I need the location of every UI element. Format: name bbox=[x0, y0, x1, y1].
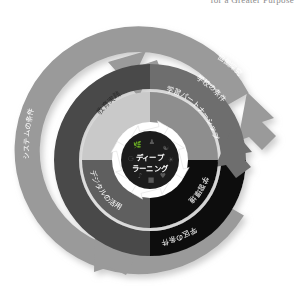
deep-learning-diagram: 🌿 ♟ ☯ ☀ ⚆ ♪ ♥ ■ ディープ ラーニング 協働探究 システムの条件 … bbox=[0, 10, 300, 286]
book-icon: ■ bbox=[148, 176, 155, 184]
diagram-canvas: 🌿 ♟ ☯ ☀ ⚆ ♪ ♥ ■ ディープ ラーニング 協働探究 システムの条件 … bbox=[0, 10, 300, 286]
core-label-line2: ラーニング bbox=[132, 164, 170, 173]
globe-icon: ⚆ bbox=[128, 155, 134, 163]
leaf-icon: 🌿 bbox=[133, 140, 142, 149]
core-label-line1: ディープ bbox=[136, 153, 165, 162]
handshake-icon: ☯ bbox=[163, 144, 169, 152]
core-circle: 🌿 ♟ ☯ ☀ ⚆ ♪ ♥ ■ ディープ ラーニング bbox=[121, 131, 179, 189]
people-icon: ♟ bbox=[149, 138, 155, 146]
music-note-icon: ♪ bbox=[138, 172, 142, 180]
page-header-fragment: for a Greater Purpose bbox=[0, 0, 300, 7]
lightbulb-icon: ☀ bbox=[168, 156, 174, 164]
heart-icon: ♥ bbox=[160, 172, 166, 180]
